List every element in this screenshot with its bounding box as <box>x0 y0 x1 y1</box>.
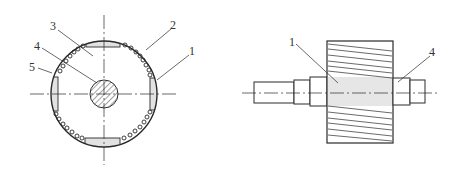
label-5: 5 <box>29 60 35 74</box>
label-1-right: 1 <box>289 35 295 49</box>
shaft-end-left <box>254 82 294 103</box>
leader-5 <box>38 68 52 73</box>
shaft-step-left-2 <box>310 77 327 106</box>
shaft-end-right <box>410 80 425 103</box>
shaft-step-left-1 <box>294 80 310 104</box>
core-shaft-band <box>328 77 392 106</box>
leader-1 <box>157 55 189 80</box>
leader-lines-left <box>38 29 189 83</box>
label-1: 1 <box>189 44 195 58</box>
label-2: 2 <box>170 18 176 32</box>
side-view: 1 4 <box>242 35 438 143</box>
leader-4-right <box>398 56 430 82</box>
leader-2 <box>146 29 171 50</box>
cross-section-view: 3 4 5 2 1 <box>29 15 195 165</box>
rotor-diagram: 3 4 5 2 1 <box>0 0 462 175</box>
label-3: 3 <box>50 19 56 33</box>
label-4: 4 <box>34 39 40 53</box>
magnet-bottom <box>85 138 120 150</box>
shaft-step-right-1 <box>393 78 410 105</box>
label-4-right: 4 <box>429 45 435 59</box>
